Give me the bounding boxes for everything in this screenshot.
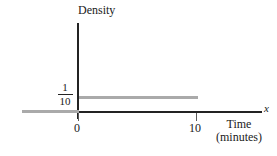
density-segment-zero-tail bbox=[22, 110, 79, 113]
x-tick-mark-0 bbox=[78, 113, 79, 121]
x-axis-line bbox=[60, 111, 262, 113]
x-tick-label-0: 0 bbox=[74, 122, 80, 135]
density-plot-figure: Density 1 10 0 10 x Time (minutes) bbox=[0, 0, 277, 156]
x-axis-variable-label: x bbox=[264, 103, 269, 115]
x-tick-mark-10 bbox=[196, 113, 197, 121]
x-axis-label: Time (minutes) bbox=[208, 118, 270, 143]
y-tick-label-one-tenth: 1 10 bbox=[55, 82, 75, 107]
y-axis-label: Density bbox=[78, 4, 115, 17]
fraction-denominator: 10 bbox=[55, 95, 75, 107]
density-segment-uniform bbox=[79, 96, 198, 99]
y-axis-line bbox=[77, 23, 79, 119]
x-axis-label-line-1: Time bbox=[227, 117, 252, 131]
x-axis-label-line-2: (minutes) bbox=[208, 131, 270, 144]
fraction-numerator: 1 bbox=[55, 82, 75, 94]
x-tick-label-10: 10 bbox=[189, 122, 201, 135]
